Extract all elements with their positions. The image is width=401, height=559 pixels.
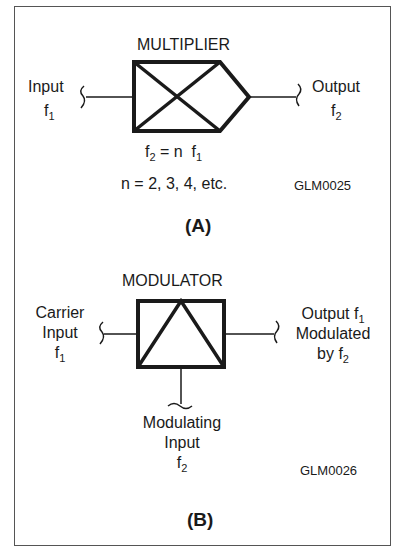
output-line3: by f2 — [288, 344, 378, 364]
multiplier-title: MULTIPLIER — [137, 35, 230, 55]
figure-b-caption: (B) — [187, 510, 213, 530]
figure-b-code: GLM0026 — [300, 461, 357, 481]
modulator-output-label: Output f1 Modulated by f2 — [288, 304, 378, 364]
output-line1: Output f1 — [288, 304, 378, 324]
multiplier-n-values: n = 2, 3, 4, etc. — [121, 174, 227, 194]
modulating-var: f2 — [136, 453, 228, 473]
multiplier-equation: f2 = n f1 — [145, 142, 202, 162]
multiplier-input-label: Input — [28, 77, 64, 97]
multiplier-symbol — [81, 62, 301, 131]
modulating-line1: Modulating — [136, 413, 228, 433]
multiplier-output-var: f2 — [331, 101, 342, 121]
multiplier-output-label: Output — [312, 77, 360, 97]
subscript: 1 — [196, 151, 202, 163]
modulator-title: MODULATOR — [122, 271, 223, 291]
subscript: 2 — [335, 110, 341, 122]
figure-a-code: GLM0025 — [294, 176, 351, 196]
modulating-line2: Input — [136, 433, 228, 453]
output-line2: Modulated — [288, 324, 378, 344]
subscript: 1 — [48, 110, 54, 122]
carrier-line2: Input — [30, 323, 90, 343]
carrier-line1: Carrier — [30, 303, 90, 323]
figure-a-caption: (A) — [185, 216, 211, 236]
eq-mid: = n f — [156, 143, 196, 160]
modulator-symbol — [100, 301, 279, 409]
carrier-var: f1 — [30, 343, 90, 363]
multiplier-input-var: f1 — [44, 101, 55, 121]
carrier-input-label: Carrier Input f1 — [30, 303, 90, 363]
modulating-input-label: Modulating Input f2 — [136, 413, 228, 473]
